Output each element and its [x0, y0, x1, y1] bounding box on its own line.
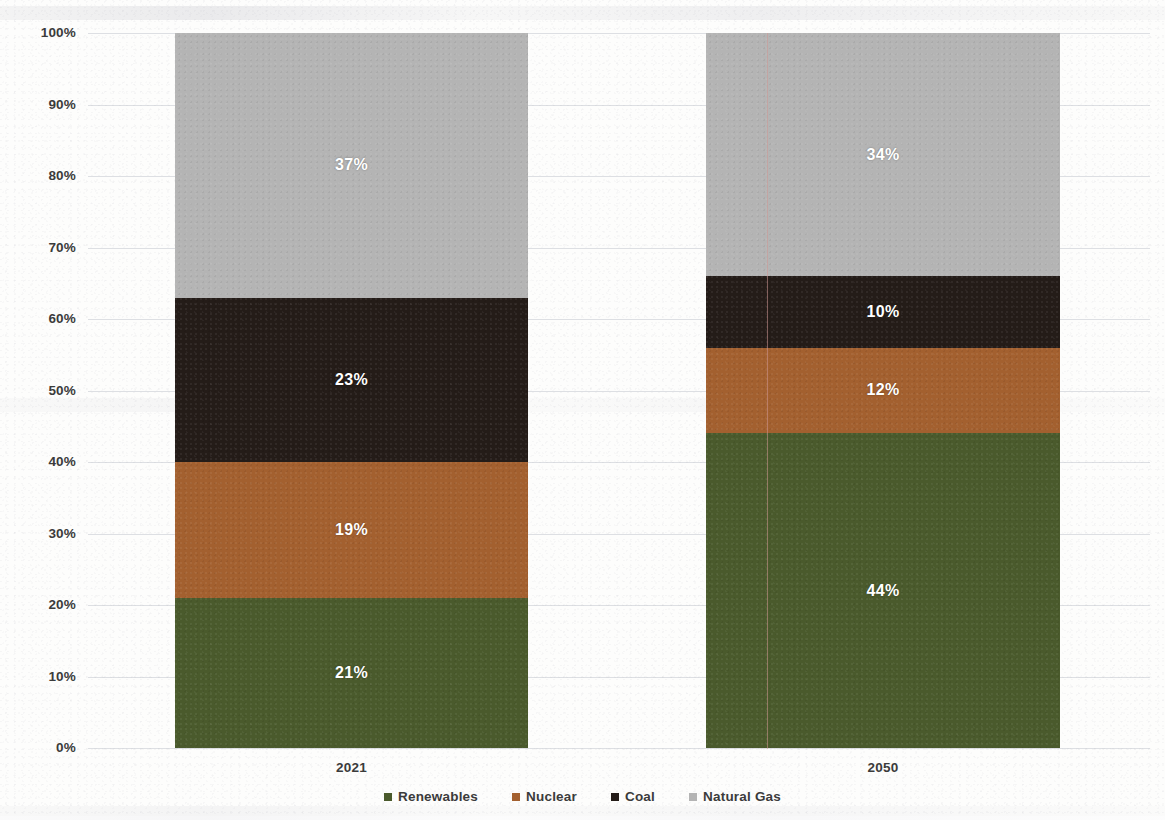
legend-swatch-icon [384, 793, 392, 801]
x-axis-category-label-2050: 2050 [783, 760, 983, 775]
y-axis-tick-label: 0% [6, 740, 76, 755]
bar-segment-value-label: 10% [866, 303, 899, 321]
legend-label: Natural Gas [703, 789, 781, 804]
legend-swatch-icon [689, 793, 697, 801]
bar-segment-natural-gas[interactable]: 34% [706, 33, 1060, 276]
bar-segment-renewables[interactable]: 44% [706, 433, 1060, 748]
y-axis-tick-label: 10% [6, 669, 76, 684]
y-axis-tick-label: 30% [6, 526, 76, 541]
bar-segment-value-label: 37% [335, 156, 368, 174]
gridline [88, 748, 1150, 749]
y-axis-tick-label: 40% [6, 454, 76, 469]
legend-item-nuclear[interactable]: Nuclear [512, 789, 577, 804]
x-axis-category-label-2021: 2021 [252, 760, 452, 775]
y-axis-tick-label: 90% [6, 97, 76, 112]
y-axis-tick-label: 20% [6, 597, 76, 612]
bar-segment-value-label: 34% [866, 146, 899, 164]
legend-item-coal[interactable]: Coal [611, 789, 655, 804]
y-axis-tick-label: 60% [6, 311, 76, 326]
legend-swatch-icon [611, 793, 619, 801]
legend-label: Nuclear [526, 789, 577, 804]
bar-segment-nuclear[interactable]: 12% [706, 348, 1060, 434]
bar-segment-value-label: 23% [335, 371, 368, 389]
bar-segment-value-label: 12% [866, 381, 899, 399]
bar-segment-value-label: 21% [335, 664, 368, 682]
y-axis-tick-label: 70% [6, 240, 76, 255]
y-axis-tick-label: 50% [6, 383, 76, 398]
legend-label: Renewables [398, 789, 478, 804]
bar-segment-coal[interactable]: 10% [706, 276, 1060, 348]
bar-segment-renewables[interactable]: 21% [175, 598, 528, 748]
legend-swatch-icon [512, 793, 520, 801]
legend-item-renewables[interactable]: Renewables [384, 789, 478, 804]
bar-segment-value-label: 19% [335, 521, 368, 539]
bar-segment-natural-gas[interactable]: 37% [175, 33, 528, 298]
chart-legend: RenewablesNuclearCoalNatural Gas [0, 789, 1165, 804]
y-axis-tick-label: 80% [6, 168, 76, 183]
bar-stack-2050[interactable]: 44%12%10%34% [706, 33, 1060, 748]
legend-item-natural-gas[interactable]: Natural Gas [689, 789, 781, 804]
bar-stack-2021[interactable]: 21%19%23%37% [175, 33, 528, 748]
bar-segment-coal[interactable]: 23% [175, 298, 528, 462]
y-axis-tick-label: 100% [6, 25, 76, 40]
legend-label: Coal [625, 789, 655, 804]
bar-segment-value-label: 44% [866, 582, 899, 600]
bar-segment-nuclear[interactable]: 19% [175, 462, 528, 598]
